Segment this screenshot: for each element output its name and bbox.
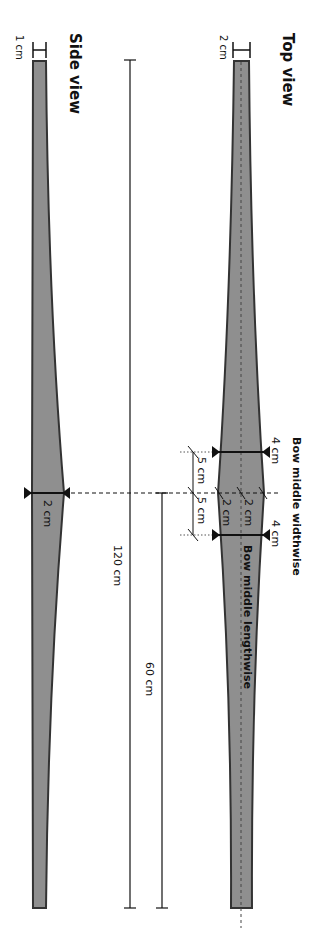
side-view-title: Side view: [66, 33, 84, 114]
bow-middle-lengthwise-label: Bow middle lengthwise: [241, 545, 254, 689]
side-tip-thickness-label: 1 cm: [14, 35, 25, 60]
top-view-title: Top view: [279, 33, 297, 107]
half-width-label-right: 2 cm: [242, 499, 255, 526]
half-width-label-left: 2 cm: [220, 499, 233, 526]
side-tip-thickness-bracket: [33, 42, 46, 58]
total-length-dimension: [124, 60, 136, 908]
top-tip-width-bracket: [233, 42, 250, 58]
bow-middle-widthwise-label: Bow middle widthwise: [290, 437, 303, 576]
top-view: [180, 42, 270, 928]
side-middle-thickness-label: 2 cm: [41, 500, 54, 527]
top-middle-width-label-upper: 4 cm: [269, 437, 282, 464]
top-middle-width-label-lower: 4 cm: [269, 520, 282, 547]
half-length-label: 60 cm: [143, 662, 156, 696]
total-length-label: 120 cm: [111, 545, 124, 586]
half-length-dimension: [156, 493, 168, 908]
side-view-bow-shape: [32, 61, 64, 908]
bow-diagram: Top view Side view 2 cm 1 cm 4 cm 4 cm 2…: [0, 0, 323, 950]
side-view: [24, 42, 70, 908]
offset-label-upper: 5 cm: [195, 457, 208, 484]
offset-label-lower: 5 cm: [195, 497, 208, 524]
top-tip-width-label: 2 cm: [218, 35, 229, 60]
